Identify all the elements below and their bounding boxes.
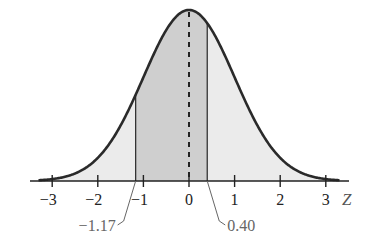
axis-tick-labels: −3−2−10123 [40,191,330,208]
callout-leader-right [207,181,225,225]
tick-label: 3 [322,191,330,208]
tick-label: 2 [276,191,284,208]
normal-curve-plot: −3−2−10123 Z −1.17 0.40 [0,0,377,250]
tick-label: 1 [231,191,239,208]
shaded-area-between-markers [136,10,208,181]
axis-label-z: Z [342,190,352,209]
tick-label: 0 [185,191,193,208]
normal-distribution-diagram: −3−2−10123 Z −1.17 0.40 [0,0,377,250]
tick-label: −3 [40,191,57,208]
callout-label-right: 0.40 [227,217,255,234]
tick-label: −1 [131,191,148,208]
tick-label: −2 [85,191,102,208]
callout-label-left: −1.17 [79,217,116,234]
